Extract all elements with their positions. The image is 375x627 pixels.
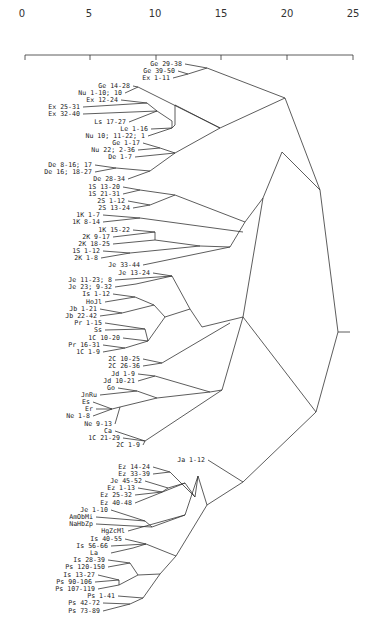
- axis-line: [25, 55, 353, 60]
- leaf-label: Ex 32-40: [48, 110, 80, 118]
- leaf-label: Je 33-44: [108, 261, 140, 269]
- leaf-label: 2C 1-9: [116, 441, 140, 449]
- leaf-label: Je 13-24: [118, 269, 150, 277]
- leaf-label: Ex 1-11: [142, 74, 170, 82]
- dendrogram: Ge 29-38Ge 39-50Ex 1-11Ge 14-28Nu 1-10; …: [0, 0, 375, 627]
- leaf-label: Ps 73-89: [68, 607, 100, 615]
- leaf-label: 2S 13-24: [98, 204, 130, 212]
- leaf-label: Is 1-12: [82, 290, 110, 298]
- leaf-label: Ez 25-32: [100, 491, 132, 499]
- leaf-label: Ps 42-72: [68, 599, 100, 607]
- leaf-label: 1K 8-14: [72, 218, 100, 226]
- leaf-labels: Ge 29-38Ge 39-50Ex 1-11Ge 14-28Nu 1-10; …: [44, 60, 205, 615]
- leaf-label: 1C 1-9: [76, 348, 100, 356]
- leaf-label: 2K 1-8: [74, 254, 98, 262]
- leaf-label: De 28-34: [93, 175, 125, 183]
- leaf-label: Go: [107, 384, 115, 392]
- leaf-label: De 1-7: [108, 153, 132, 161]
- leaf-label: NaHbZp: [69, 520, 93, 528]
- leaf-label: De 16; 18-27: [44, 168, 92, 176]
- leaf-label: Ex 12-24: [86, 96, 118, 104]
- leaf-label: Ja 1-12: [177, 456, 205, 464]
- leaf-label: 2C 26-36: [108, 362, 140, 370]
- leaf-label: Ps 120-150: [65, 563, 105, 571]
- leaf-label: HgZcMl: [101, 527, 125, 535]
- leaf-label: Ss: [94, 326, 102, 334]
- leaf-label: Ne 1-8: [66, 412, 90, 420]
